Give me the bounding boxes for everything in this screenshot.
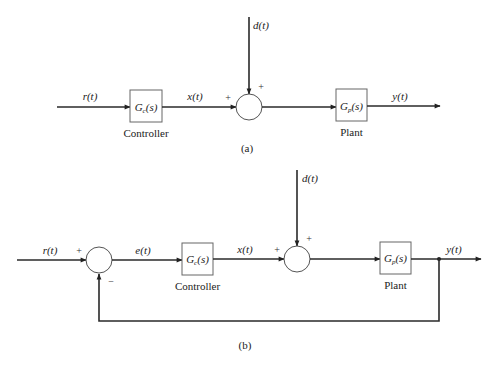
plant-block-b: Gp(s) Plant: [380, 242, 411, 291]
summing-junction-b2: [284, 246, 310, 272]
signal-x-a: x(t): [186, 90, 203, 103]
controller-tf-b: Gc(s): [186, 253, 209, 267]
controller-tf-a: Gc(s): [135, 101, 158, 115]
summing-junction-a: [236, 94, 262, 120]
signal-d-b: d(t): [302, 172, 318, 185]
signal-e-b: e(t): [135, 244, 151, 257]
signal-y-a: y(t): [391, 90, 408, 103]
signal-r-b: r(t): [43, 244, 58, 257]
signal-r-a: r(t): [83, 90, 98, 103]
diagram-b: r(t) + − e(t) Gc(s) Controller x(t) + d(…: [17, 170, 481, 352]
block-diagrams: r(t) Gc(s) Controller x(t) + d(t) + Gp(s…: [0, 0, 494, 367]
diagram-label-a: (a): [241, 142, 254, 155]
diagram-label-b: (b): [239, 339, 252, 352]
plant-caption-a: Plant: [340, 126, 363, 138]
sign-plus-top-b2: +: [306, 233, 312, 244]
plant-caption-b: Plant: [384, 279, 407, 291]
sign-plus-left-b1: +: [76, 245, 82, 256]
signal-x-b: x(t): [236, 243, 253, 256]
sign-plus-left-b2: +: [274, 244, 280, 255]
plant-tf-a: Gp(s): [340, 100, 363, 114]
sign-minus-bottom-b1: −: [108, 276, 114, 287]
sign-plus-top-a: +: [258, 81, 264, 92]
signal-y-b: y(t): [445, 243, 462, 256]
plant-block-a: Gp(s) Plant: [336, 89, 367, 138]
controller-caption-b: Controller: [175, 280, 221, 292]
plant-tf-b: Gp(s): [384, 252, 407, 266]
summing-junction-b1: [86, 247, 112, 273]
controller-block-a: Gc(s) Controller: [123, 90, 169, 139]
controller-caption-a: Controller: [123, 127, 169, 139]
controller-block-b: Gc(s) Controller: [175, 243, 221, 292]
sign-plus-left-a: +: [225, 92, 231, 103]
signal-d-a: d(t): [253, 19, 269, 32]
diagram-a: r(t) Gc(s) Controller x(t) + d(t) + Gp(s…: [57, 17, 440, 155]
